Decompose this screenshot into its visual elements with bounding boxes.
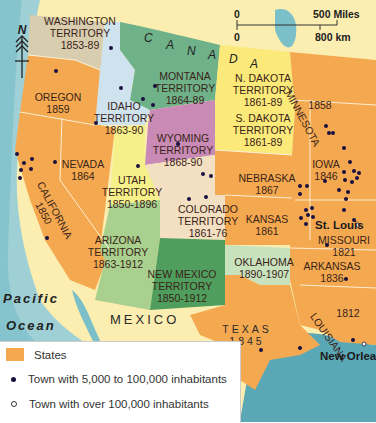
scale-km-zero: 0 [234,31,240,43]
legend-item-small-town: Town with 5,000 to 100,000 inhabitants [6,373,227,385]
ocean-label-ocean: Ocean [6,318,56,333]
label-wyoming: WYOMINGTERRITORY1868-90 [153,132,213,168]
filled-dot-icon [11,377,16,382]
label-utah: UTAHTERRITORY1850-1896 [102,174,162,210]
mexico-label: MEXICO [110,312,179,327]
label-louisiana-year: 1812 [336,307,359,319]
label-nebraska: NEBRASKA1867 [238,172,295,196]
legend-item-large-town: Town with over 100,000 inhabitants [6,398,209,410]
label-nevada: NEVADA1864 [62,158,104,182]
city-st-louis: St. Louis [315,219,364,231]
label-arizona: ARIZONATERRITORY1863-1912 [88,234,148,270]
label-montana: MONTANATERRITORY1864-89 [155,70,215,106]
label-iowa: IOWA1846 [312,158,340,182]
label-missouri: MISSOURI1821 [318,234,370,258]
label-sdakota: S. DAKOTATERRITORY1861-89 [233,112,293,148]
label-idaho: IDAHOTERRITORY1863-90 [94,100,154,136]
state-swatch-icon [6,348,24,361]
compass-label: N [18,24,27,36]
label-minnesota-year: 1858 [308,99,331,111]
label-oklahoma: OKLAHOMA1890-1907 [234,256,294,280]
legend-item-states: States [6,348,67,361]
open-dot-icon [11,401,17,407]
scale-km-label: 800 km [315,31,351,43]
label-arkansas: ARKANSAS1836 [303,260,360,284]
label-newmexico: NEW MEXICOTERRITORY1850-1912 [148,268,217,304]
label-ndakota: N. DAKOTATERRITORY1861-89 [233,72,293,108]
scale-miles-label: 500 Miles [313,8,360,20]
label-oregon: OREGON1859 [35,91,82,115]
city-new-orleans: New Orlea [320,350,376,362]
ocean-label-pacific: Pacific [3,291,59,306]
scale-miles-zero: 0 [234,8,240,20]
label-washington: WASHINGTONTERRITORY1853-89 [44,15,116,51]
label-colorado: COLORADOTERRITORY1861-76 [178,203,238,239]
map-legend: States Town with 5,000 to 100,000 inhabi… [0,341,241,423]
label-kansas: KANSAS1861 [246,213,289,237]
